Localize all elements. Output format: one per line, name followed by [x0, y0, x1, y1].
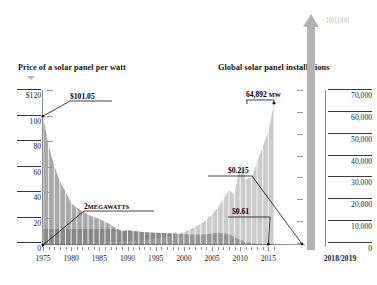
x-minor-tick [156, 247, 157, 251]
x-minor-tick [54, 247, 55, 250]
x-minor-tick [60, 247, 61, 250]
x-minor-tick [229, 247, 230, 250]
right-y-tick-label: 60,000 [328, 113, 372, 122]
right-y-tick-rule [328, 111, 372, 112]
x-minor-tick [212, 247, 213, 251]
x-tick-label: 1995 [148, 254, 163, 263]
arrow-value-label: >100,000 [321, 16, 349, 25]
x-minor-tick [235, 247, 236, 250]
x-minor-tick [189, 247, 190, 250]
right-y-tick-mark [297, 221, 303, 222]
x-minor-tick [246, 247, 247, 250]
callout-price-start: $101.05 [70, 92, 95, 101]
left-y-tick-label: 80 [17, 142, 41, 151]
left-y-tick-label: 100 [17, 117, 41, 126]
right-y-tick-label: 0 [328, 244, 372, 253]
callout-install-start: 2MEGAWATTS [84, 202, 129, 211]
right-y-tick-label: 40,000 [328, 157, 372, 166]
right-y-tick-mark [297, 156, 303, 157]
left-y-tick-rule [17, 217, 41, 218]
chart-root: Price of a solar panel per watt Global s… [0, 0, 377, 285]
chart-svg [43, 92, 305, 245]
left-y-tick-mark [47, 192, 53, 193]
x-minor-tick [223, 247, 224, 250]
callout-price-2019: $0.215 [228, 166, 249, 175]
x-minor-tick [195, 247, 196, 250]
right-y-tick-rule [328, 220, 372, 221]
right-y-tick-label: 20,000 [328, 200, 372, 209]
right-y-tick-label: 10,000 [328, 222, 372, 231]
x-minor-tick [133, 247, 134, 250]
right-y-tick-mark [297, 112, 303, 113]
x-tick-label: 2018/2019 [324, 254, 357, 263]
x-tick-label: 1990 [120, 254, 135, 263]
x-minor-tick [206, 247, 207, 250]
x-minor-tick [218, 247, 219, 250]
x-minor-tick [71, 247, 72, 251]
left-y-tick-mark [47, 243, 53, 244]
x-tick-label: 2005 [204, 254, 219, 263]
x-minor-tick [184, 247, 185, 251]
x-minor-tick [173, 247, 174, 250]
right-y-tick-rule [328, 155, 372, 156]
x-minor-tick [139, 247, 140, 250]
x-minor-tick [116, 247, 117, 250]
left-y-tick-mark [47, 90, 53, 91]
left-chart-title: Price of a solar panel per watt [18, 63, 126, 72]
x-tick-label: 2015 [261, 254, 276, 263]
callout-install-peak-unit: MW [269, 91, 281, 98]
x-minor-tick [43, 247, 44, 251]
right-y-tick-mark [297, 243, 303, 244]
x-minor-tick [49, 247, 50, 250]
plot-area [43, 92, 305, 245]
left-y-tick-mark [47, 218, 53, 219]
x-minor-tick [66, 247, 67, 250]
left-y-tick-rule [17, 242, 41, 243]
arrow-shaft [307, 25, 315, 250]
right-y-tick-mark [297, 199, 303, 200]
x-minor-tick [201, 247, 202, 250]
left-y-tick-rule [17, 115, 41, 116]
left-axis-spine [42, 90, 43, 247]
left-y-tick-rule [17, 89, 41, 90]
right-y-tick-rule [328, 89, 372, 90]
x-minor-tick [111, 247, 112, 250]
x-minor-tick [128, 247, 129, 251]
x-minor-tick [161, 247, 162, 250]
x-minor-tick [240, 247, 241, 251]
x-minor-tick [150, 247, 151, 250]
x-minor-tick [94, 247, 95, 250]
x-minor-tick [178, 247, 179, 250]
x-tick-label: 1985 [92, 254, 107, 263]
right-axis-spine [325, 90, 326, 247]
x-tick-label: 1980 [64, 254, 79, 263]
left-y-tick-rule [17, 191, 41, 192]
growth-arrow [303, 12, 319, 250]
left-y-tick-mark [47, 116, 53, 117]
callout-price-2015: $0.61 [232, 207, 249, 216]
x-minor-tick [167, 247, 168, 250]
right-y-tick-mark [297, 90, 303, 91]
x-minor-tick [257, 247, 258, 250]
x-tick-label: 2010 [233, 254, 248, 263]
x-minor-tick [88, 247, 89, 250]
callout-install-peak: 64,892 MW [246, 90, 281, 99]
x-minor-tick [122, 247, 123, 250]
x-tick-label: 1975 [35, 254, 50, 263]
x-minor-tick [105, 247, 106, 250]
right-y-tick-rule [328, 198, 372, 199]
left-y-tick-label: 40 [17, 193, 41, 202]
x-minor-tick [82, 247, 83, 250]
left-y-tick-label: 0 [17, 244, 41, 253]
triangle-down-icon [27, 76, 35, 80]
right-y-tick-label: 70,000 [328, 91, 372, 100]
x-minor-tick [274, 247, 275, 250]
x-minor-tick [144, 247, 145, 250]
callout-install-start-unit: MEGAWATTS [88, 203, 130, 210]
x-minor-tick [251, 247, 252, 250]
x-minor-tick [268, 247, 269, 251]
left-y-tick-mark [47, 141, 53, 142]
callout-install-peak-num: 64,892 [246, 90, 267, 99]
left-y-tick-mark [47, 167, 53, 168]
right-y-tick-mark [297, 134, 303, 135]
